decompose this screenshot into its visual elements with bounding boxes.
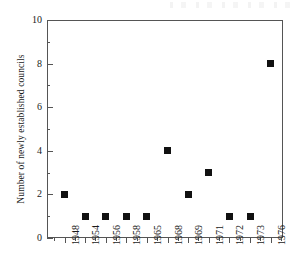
x-tick-label: 1972 <box>234 211 246 245</box>
x-tick-major <box>106 238 107 243</box>
data-point-marker <box>164 147 171 154</box>
x-tick-major <box>188 238 189 243</box>
x-tick-major <box>209 238 210 243</box>
x-tick-major <box>271 238 272 243</box>
plot-area <box>47 20 283 238</box>
data-point-marker <box>205 169 212 176</box>
data-point-marker <box>143 213 150 220</box>
data-point-marker <box>61 191 68 198</box>
y-tick-minor <box>47 42 50 43</box>
x-tick-label: 1971 <box>214 211 226 245</box>
y-tick-label: 2 <box>22 189 42 199</box>
y-tick-minor <box>47 216 50 217</box>
x-tick-major <box>147 238 148 243</box>
data-point-marker <box>185 191 192 198</box>
x-tick-major <box>65 238 66 243</box>
y-tick-minor <box>47 85 50 86</box>
y-tick-major <box>47 20 53 21</box>
y-tick-label: 8 <box>22 59 42 69</box>
x-tick-label: 1958 <box>131 211 143 245</box>
y-tick-major <box>47 151 53 152</box>
x-tick-major <box>229 238 230 243</box>
scan-artifact <box>170 2 290 8</box>
y-tick-label: 6 <box>22 102 42 112</box>
y-tick-major <box>47 64 53 65</box>
y-tick-label: 4 <box>22 146 42 156</box>
y-axis-title: Number of newly established councils <box>14 20 28 238</box>
y-tick-major <box>47 238 53 239</box>
x-tick-label: 1948 <box>70 211 82 245</box>
data-point-marker <box>102 213 109 220</box>
x-tick-label: 1965 <box>152 211 164 245</box>
x-tick-major <box>168 238 169 243</box>
x-tick-major <box>126 238 127 243</box>
figure-container: Number of newly established councils 024… <box>0 0 296 277</box>
x-tick-major <box>250 238 251 243</box>
x-tick-label: 1954 <box>90 211 102 245</box>
y-tick-label: 10 <box>22 15 42 25</box>
data-point-marker <box>123 213 130 220</box>
y-tick-major <box>47 107 53 108</box>
x-tick-label: 1956 <box>111 211 123 245</box>
x-tick-label: 1973 <box>255 211 267 245</box>
y-tick-label: 0 <box>22 233 42 243</box>
x-tick-label: 1969 <box>193 211 205 245</box>
data-point-marker <box>82 213 89 220</box>
data-point-marker <box>226 213 233 220</box>
y-tick-minor <box>47 129 50 130</box>
x-tick-minor <box>281 238 282 241</box>
x-tick-minor <box>54 238 55 241</box>
x-tick-major <box>85 238 86 243</box>
y-tick-minor <box>47 173 50 174</box>
data-point-marker <box>267 60 274 67</box>
data-point-marker <box>247 213 254 220</box>
y-tick-major <box>47 194 53 195</box>
x-tick-label: 1968 <box>173 211 185 245</box>
